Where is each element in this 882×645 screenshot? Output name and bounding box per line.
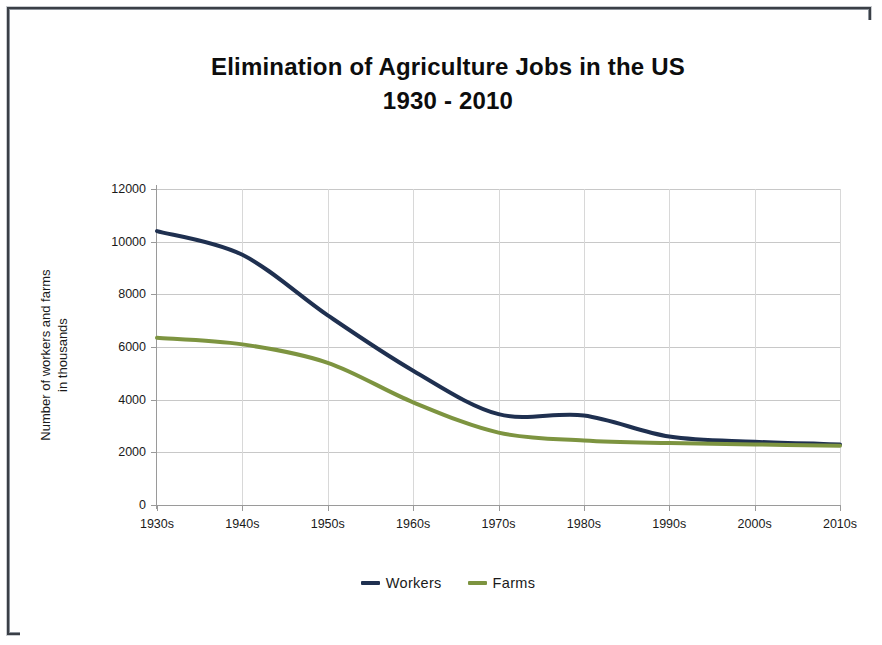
y-axis-tick-label: 0 (26, 499, 146, 511)
legend-item-workers[interactable]: Workers (361, 575, 442, 591)
plot-wrapper: 020004000600080001000012000 1930s1940s19… (157, 189, 840, 505)
y-axis-tick-label: 2000 (26, 446, 146, 458)
x-axis-tick (584, 505, 585, 511)
y-axis-tick-label: 6000 (26, 341, 146, 353)
slide-frame: Elimination of Agriculture Jobs in the U… (7, 7, 871, 635)
x-axis-tick (755, 505, 756, 511)
legend-swatch-workers (361, 581, 380, 585)
x-axis-tick (840, 505, 841, 511)
series-line-farms (157, 338, 840, 446)
x-axis-tick-label: 1960s (368, 517, 458, 531)
x-axis-tick-label: 1980s (539, 517, 629, 531)
x-axis-tick (413, 505, 414, 511)
x-axis-tick (242, 505, 243, 511)
legend-item-farms[interactable]: Farms (468, 575, 536, 591)
x-axis-tick-label: 1990s (624, 517, 714, 531)
x-axis-tick (328, 505, 329, 511)
y-axis-tick-label: 12000 (26, 183, 146, 195)
y-axis-title: Number of workers and farms in thousands (37, 235, 71, 475)
x-axis-tick (669, 505, 670, 511)
vertical-gridline (840, 189, 841, 505)
x-axis-tick-label: 1950s (283, 517, 373, 531)
legend-label-farms: Farms (493, 575, 536, 591)
x-axis-tick (157, 505, 158, 511)
chart-legend: Workers Farms (20, 575, 876, 591)
x-axis-tick-label: 1940s (197, 517, 287, 531)
series-line-workers (157, 231, 840, 444)
x-axis-tick (499, 505, 500, 511)
chart-title-line1: Elimination of Agriculture Jobs in the U… (211, 53, 685, 80)
slide-canvas: Elimination of Agriculture Jobs in the U… (0, 0, 882, 645)
chart-title-line2: 1930 - 2010 (20, 84, 876, 118)
x-axis-tick-label: 2010s (795, 517, 882, 531)
legend-label-workers: Workers (386, 575, 442, 591)
legend-swatch-farms (468, 581, 487, 585)
y-axis-title-line2: in thousands (54, 235, 71, 475)
y-axis-tick-label: 8000 (26, 288, 146, 300)
series-layer (157, 189, 840, 505)
chart-title: Elimination of Agriculture Jobs in the U… (20, 50, 876, 118)
y-axis-tick-label: 4000 (26, 394, 146, 406)
x-axis-tick-label: 1970s (454, 517, 544, 531)
x-axis-tick-label: 2000s (710, 517, 800, 531)
x-axis-tick-label: 1930s (112, 517, 202, 531)
plot-area: 020004000600080001000012000 1930s1940s19… (157, 189, 840, 505)
y-axis-tick-label: 10000 (26, 236, 146, 248)
chart-container: Elimination of Agriculture Jobs in the U… (20, 20, 876, 640)
